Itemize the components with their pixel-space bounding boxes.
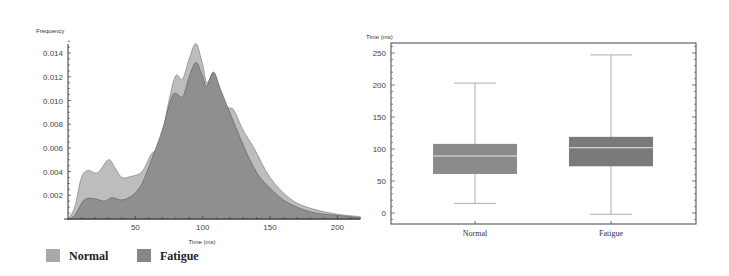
category-label-normal: Normal [463, 229, 488, 238]
density-plot: Frequency 0.0020.0040.0060.0080.0100.012… [36, 28, 360, 245]
density-y-tick-label: 0.002 [43, 191, 64, 200]
box-y-tick-label: 200 [373, 81, 387, 90]
box-normal [433, 83, 517, 224]
density-x-tick-label: 50 [131, 223, 140, 232]
density-x-tick-label: 150 [263, 223, 277, 232]
box-y-tick-label: 250 [373, 49, 387, 58]
legend: Normal Fatigue [46, 249, 199, 263]
box-y-tick-label: 100 [373, 145, 387, 154]
legend-label-fatigue: Fatigue [160, 249, 199, 263]
density-x-axis-title: Time (ms) [189, 239, 216, 245]
density-x-tick-label: 100 [196, 223, 210, 232]
density-y-tick-label: 0.014 [43, 49, 64, 58]
legend-swatch-normal [46, 249, 60, 262]
legend-swatch-fatigue [137, 249, 151, 262]
density-y-tick-label: 0.008 [43, 120, 64, 129]
density-y-tick-label: 0.004 [43, 168, 64, 177]
density-y-tick-label: 0.010 [43, 97, 64, 106]
density-y-tick-label: 0.006 [43, 144, 64, 153]
box-plot-frame [391, 43, 696, 224]
figure: Frequency 0.0020.0040.0060.0080.0100.012… [0, 0, 729, 276]
box-y-tick-label: 150 [373, 113, 387, 122]
box-plot: Time (ms) 050100150200250 Normal Fatigue [366, 34, 696, 238]
density-y-tick-label: 0.012 [43, 73, 64, 82]
box-y-tick-label: 0 [382, 209, 387, 218]
density-x-tick-label: 200 [331, 223, 345, 232]
box-axes: 050100150200250 [373, 47, 696, 220]
box-fatigue [569, 55, 653, 224]
box-y-tick-label: 50 [377, 177, 386, 186]
boxes [433, 55, 653, 224]
box-y-axis-title: Time (ms) [366, 34, 393, 40]
category-label-fatigue: Fatigue [599, 229, 623, 238]
legend-label-normal: Normal [69, 249, 109, 263]
density-y-axis-title: Frequency [36, 28, 64, 34]
